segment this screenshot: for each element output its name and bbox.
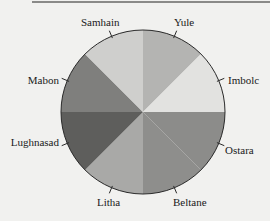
- label-litha: Litha: [97, 196, 120, 208]
- label-yule: Yule: [174, 16, 194, 28]
- label-samhain: Samhain: [81, 16, 120, 28]
- label-beltane: Beltane: [173, 196, 207, 208]
- pie-slices: [61, 30, 225, 194]
- label-ostara: Ostara: [225, 144, 254, 156]
- pie-chart: Yule Imbolc Ostara Beltane Litha Lughnas…: [0, 0, 270, 221]
- label-lughnasad: Lughnasad: [11, 136, 60, 148]
- label-mabon: Mabon: [28, 74, 60, 86]
- label-imbolc: Imbolc: [228, 74, 259, 86]
